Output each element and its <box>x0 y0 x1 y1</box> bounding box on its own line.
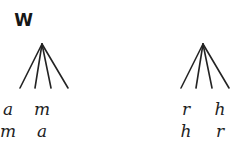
branch-line <box>42 44 51 88</box>
tree-group-w: W a m m a <box>0 0 120 163</box>
leaf-label: h <box>169 120 203 142</box>
leaf-row: m a <box>0 120 85 142</box>
leaf-label: a <box>25 120 59 142</box>
leaf-row: h r <box>143 120 240 142</box>
leaf-label: r <box>169 98 203 120</box>
branch-line <box>181 44 203 88</box>
leaf-rows-w: a m m a <box>0 98 85 142</box>
branch-line <box>203 44 229 88</box>
tree-root-label-x: X <box>203 10 240 30</box>
branch-line <box>203 44 212 88</box>
leaf-row: a m <box>0 98 85 120</box>
leaf-label: m <box>25 98 59 120</box>
leaf-label: a <box>0 98 25 120</box>
leaf-row: r h <box>143 98 240 120</box>
leaf-rows-x: r h h r <box>143 98 240 142</box>
diagram-canvas: W a m m a X r <box>0 0 240 163</box>
tree-root-label-w: W <box>0 10 84 30</box>
leaf-label: r <box>203 120 237 142</box>
leaf-label: m <box>0 120 25 142</box>
branch-line <box>35 44 42 88</box>
branch-line <box>196 44 203 88</box>
branch-line <box>42 44 68 88</box>
branch-line <box>20 44 42 88</box>
leaf-label: h <box>203 98 237 120</box>
tree-group-x: X r h h r <box>120 0 240 163</box>
